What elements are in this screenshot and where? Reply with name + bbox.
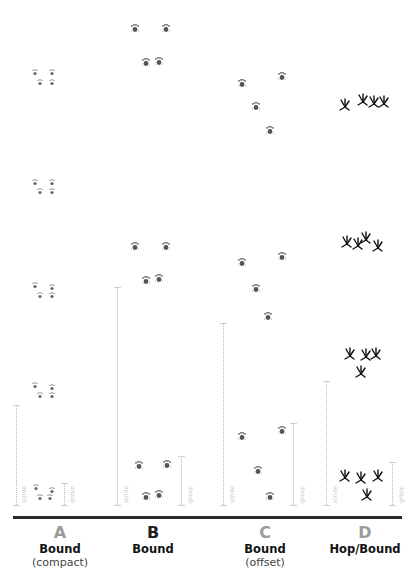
column-b-letter: B xyxy=(103,524,203,542)
stride-label-d: stride xyxy=(331,486,338,503)
group-label-d: group xyxy=(397,486,404,503)
column-d-tracks xyxy=(340,94,388,500)
column-a-label: A Bound (compact) xyxy=(10,524,110,569)
stride-label-a: stride xyxy=(20,486,27,503)
column-a-tracks xyxy=(32,69,54,500)
column-c-tracks xyxy=(238,72,286,500)
column-d-letter: D xyxy=(315,524,413,542)
tracks-layer xyxy=(0,0,413,515)
group-line-d xyxy=(392,462,393,505)
track-pattern-diagram: stride group stride group stride group s… xyxy=(0,0,413,573)
column-a-note: (compact) xyxy=(10,556,110,569)
stride-line-c xyxy=(223,323,224,505)
column-d-gait: Hop/Bound xyxy=(315,542,413,556)
stride-label-c: stride xyxy=(228,486,235,503)
column-b-label: B Bound xyxy=(103,524,203,556)
column-b-gait: Bound xyxy=(103,542,203,556)
column-a-letter: A xyxy=(10,524,110,542)
group-line-b xyxy=(181,456,182,505)
column-c-letter: C xyxy=(215,524,315,542)
group-line-c xyxy=(293,423,294,505)
column-c-gait: Bound xyxy=(215,542,315,556)
group-label-c: group xyxy=(298,486,305,503)
column-c-label: C Bound (offset) xyxy=(215,524,315,569)
baseline-rule xyxy=(13,516,402,519)
column-b-tracks xyxy=(131,24,171,500)
group-label-b: group xyxy=(186,486,193,503)
stride-line-d xyxy=(326,381,327,505)
column-d-label: D Hop/Bound xyxy=(315,524,413,556)
stride-line-b xyxy=(117,287,118,505)
group-label-a: group xyxy=(68,486,75,503)
column-a-gait: Bound xyxy=(10,542,110,556)
column-c-note: (offset) xyxy=(215,556,315,569)
group-line-a xyxy=(64,483,65,505)
stride-label-b: stride xyxy=(122,486,129,503)
stride-line-a xyxy=(16,405,17,505)
